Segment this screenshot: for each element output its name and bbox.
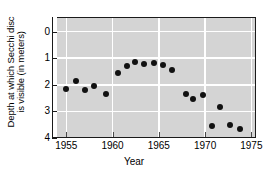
- y-axis-title: Depth at which Secchi disc is visible (i…: [0, 0, 34, 144]
- x-axis-tick-mark: [66, 132, 67, 137]
- data-point: [115, 70, 121, 76]
- data-point: [183, 91, 189, 97]
- data-point: [73, 78, 79, 84]
- gridline-vertical: [158, 17, 160, 138]
- data-point: [132, 59, 138, 65]
- x-axis-tick-label: 1955: [55, 140, 77, 151]
- y-axis-tick-label: 3: [36, 106, 50, 116]
- data-point: [91, 83, 97, 89]
- plot-border-bottom: [52, 137, 256, 138]
- y-axis-tick-labels: 01234: [34, 0, 50, 144]
- x-axis-title: Year: [0, 156, 268, 167]
- gridline-vertical: [112, 17, 114, 138]
- gridline-horizontal: [57, 84, 256, 86]
- data-point: [151, 60, 157, 66]
- x-axis-tick-mark: [113, 132, 114, 137]
- x-axis-tick-label: 1975: [240, 140, 262, 151]
- gridline-horizontal: [57, 111, 256, 113]
- gridline-vertical: [66, 17, 68, 138]
- y-axis-title-line-2: is visible (in meters): [15, 31, 26, 113]
- plot-border-right: [255, 17, 256, 138]
- y-axis-tick-label: 1: [36, 53, 50, 63]
- x-axis-tick-label: 1970: [194, 140, 216, 151]
- data-point: [160, 62, 166, 68]
- data-point: [190, 96, 196, 102]
- x-axis-tick-mark: [159, 132, 160, 137]
- y-axis-tick-mark: [52, 138, 57, 139]
- x-axis-tick-label: 1965: [148, 140, 170, 151]
- gridline-horizontal: [57, 31, 256, 33]
- y-axis-tick-label: 4: [36, 133, 50, 143]
- data-point: [227, 122, 233, 128]
- data-point: [217, 104, 223, 110]
- x-axis-tick-label: 1960: [101, 140, 123, 151]
- data-point: [63, 86, 69, 92]
- gridline-horizontal: [57, 57, 256, 59]
- data-point: [82, 87, 88, 93]
- x-axis-tick-mark: [251, 132, 252, 137]
- y-axis-tick-label: 2: [36, 80, 50, 90]
- gridline-vertical: [251, 17, 253, 138]
- gridline-vertical: [204, 17, 206, 138]
- data-point: [141, 61, 147, 67]
- data-point: [124, 63, 130, 69]
- x-axis-tick-mark: [205, 132, 206, 137]
- data-point: [209, 123, 215, 129]
- plot-border-top: [57, 17, 256, 18]
- data-point: [237, 126, 243, 132]
- data-point: [169, 67, 175, 73]
- y-axis-tick-label: 0: [36, 27, 50, 37]
- y-axis-line: [52, 17, 53, 138]
- plot-area: [57, 17, 256, 138]
- data-point: [103, 91, 109, 97]
- secchi-disc-depth-scatter-chart: Depth at which Secchi disc is visible (i…: [0, 0, 268, 178]
